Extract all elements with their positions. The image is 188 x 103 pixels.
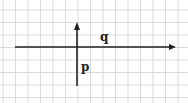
grid-diagram bbox=[0, 0, 188, 103]
label-q: q bbox=[100, 31, 108, 43]
label-p: p bbox=[81, 61, 89, 73]
